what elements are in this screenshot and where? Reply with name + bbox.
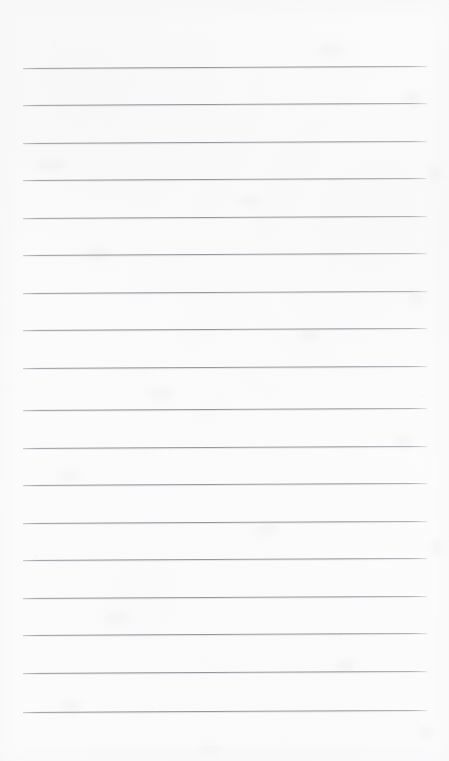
scan-smudge [318,44,344,56]
rule-line [23,103,427,106]
scan-smudge [238,196,260,206]
rule-line [23,366,427,369]
rule-line [23,483,427,486]
rule-line [23,178,427,181]
scan-smudge [148,388,174,400]
scan-vignette [0,0,449,761]
rule-line [23,633,427,636]
scan-smudge [336,660,356,671]
rule-line [23,66,427,69]
scanned-page [0,0,449,761]
paper-background [0,0,449,761]
rule-line [23,253,427,256]
scan-smudge [428,166,442,182]
scan-smudge [36,160,66,171]
rule-line [23,408,427,411]
scan-smudge [86,248,110,260]
rule-line [23,710,427,713]
scan-smudge [430,540,444,555]
rule-line [23,328,427,331]
scan-smudge [198,744,222,754]
rule-line [23,521,427,524]
rule-line [23,446,427,449]
scan-smudge [60,700,82,712]
rule-line [23,596,427,599]
scan-smudge [404,92,422,106]
scan-smudge [58,470,80,482]
scan-smudge [254,524,278,535]
scan-smudge [418,726,434,740]
scan-smudge [300,330,320,341]
rule-line [23,141,427,144]
scan-smudge [104,612,130,624]
ruled-lines-layer [0,0,449,761]
rule-line [23,291,427,294]
rule-line [23,671,427,674]
scan-smudge [408,290,424,304]
rule-line [23,216,427,219]
rule-line [23,558,427,561]
paper-grain-texture [0,0,449,761]
scan-smudge [394,436,412,449]
